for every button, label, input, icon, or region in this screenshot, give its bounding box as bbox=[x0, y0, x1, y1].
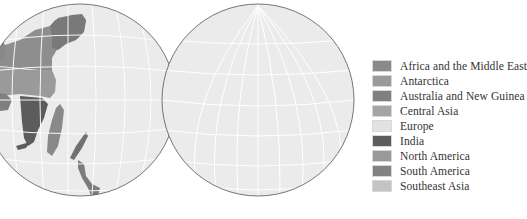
legend-item-southeast-asia: Southeast Asia bbox=[372, 178, 527, 193]
legend-label: Southeast Asia bbox=[400, 180, 469, 192]
legend-swatch bbox=[372, 150, 392, 162]
legend-swatch bbox=[372, 75, 392, 87]
globe-map bbox=[0, 0, 360, 219]
legend-label: Europe bbox=[400, 120, 434, 132]
legend-swatch bbox=[372, 105, 392, 117]
legend-swatch bbox=[372, 90, 392, 102]
legend-item-south-america: South America bbox=[372, 163, 527, 178]
legend-swatch bbox=[372, 180, 392, 192]
legend-label: India bbox=[400, 135, 424, 147]
legend-swatch bbox=[372, 120, 392, 132]
legend: Africa and the Middle East Antarctica Au… bbox=[372, 58, 527, 193]
region-east-asia bbox=[0, 66, 56, 98]
legend-label: Africa and the Middle East bbox=[400, 60, 527, 72]
legend-item-india: India bbox=[372, 133, 527, 148]
legend-label: South America bbox=[400, 165, 470, 177]
legend-label: Australia and New Guinea bbox=[400, 90, 525, 102]
right-globe bbox=[162, 4, 354, 196]
legend-item-central-asia: Central Asia bbox=[372, 103, 527, 118]
legend-label: North America bbox=[400, 150, 470, 162]
legend-item-africa-middle-east: Africa and the Middle East bbox=[372, 58, 527, 73]
legend-item-north-america: North America bbox=[372, 148, 527, 163]
legend-item-australia-new-guinea: Australia and New Guinea bbox=[372, 88, 527, 103]
legend-item-europe: Europe bbox=[372, 118, 527, 133]
legend-label: Central Asia bbox=[400, 105, 458, 117]
legend-swatch bbox=[372, 165, 392, 177]
legend-item-antarctica: Antarctica bbox=[372, 73, 527, 88]
legend-label: Antarctica bbox=[400, 75, 449, 87]
left-globe bbox=[0, 0, 180, 200]
legend-swatch bbox=[372, 135, 392, 147]
legend-swatch bbox=[372, 60, 392, 72]
